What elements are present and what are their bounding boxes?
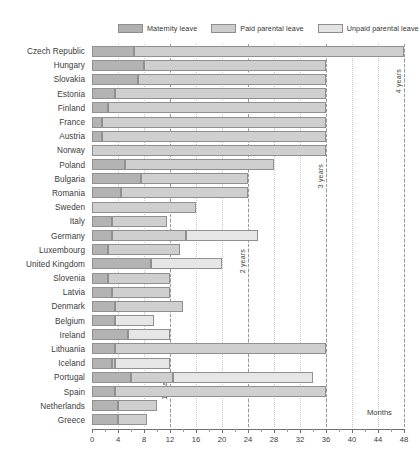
bar-segment-paid[interactable]: [118, 400, 157, 411]
bar-row: United Kingdom: [92, 258, 404, 269]
stacked-bar[interactable]: [92, 358, 170, 369]
bar-segment-paid[interactable]: [131, 372, 173, 383]
stacked-bar[interactable]: [92, 400, 157, 411]
axis-tick: [209, 429, 210, 432]
bar-segment-mat[interactable]: [92, 343, 115, 354]
axis-tick: [170, 429, 171, 433]
stacked-bar[interactable]: [92, 60, 326, 71]
bar-segment-mat[interactable]: [92, 216, 112, 227]
bar-segment-mat[interactable]: [92, 173, 141, 184]
stacked-bar[interactable]: [92, 301, 183, 312]
bar-segment-paid[interactable]: [115, 88, 326, 99]
bar-segment-paid[interactable]: [108, 273, 170, 284]
bar-segment-mat[interactable]: [92, 187, 121, 198]
bar-segment-paid[interactable]: [102, 131, 326, 142]
bar-segment-mat[interactable]: [92, 46, 134, 57]
bar-segment-paid[interactable]: [115, 386, 326, 397]
stacked-bar[interactable]: [92, 273, 170, 284]
bar-segment-mat[interactable]: [92, 60, 144, 71]
stacked-bar[interactable]: [92, 159, 274, 170]
bar-segment-paid[interactable]: [92, 202, 196, 213]
bar-segment-mat[interactable]: [92, 74, 138, 85]
bar-segment-mat[interactable]: [92, 258, 151, 269]
bar-segment-paid[interactable]: [144, 60, 326, 71]
bar-segment-mat[interactable]: [92, 372, 131, 383]
stacked-bar[interactable]: [92, 372, 313, 383]
bar-segment-paid[interactable]: [112, 216, 167, 227]
axis-tick: [339, 429, 340, 432]
bar-segment-unpaid[interactable]: [151, 258, 223, 269]
bar-segment-mat[interactable]: [92, 159, 125, 170]
bar-segment-mat[interactable]: [92, 273, 108, 284]
bar-segment-mat[interactable]: [92, 414, 118, 425]
stacked-bar[interactable]: [92, 329, 170, 340]
stacked-bar[interactable]: [92, 46, 404, 57]
bar-segment-mat[interactable]: [92, 358, 112, 369]
bar-segment-mat[interactable]: [92, 244, 108, 255]
bar-segment-paid[interactable]: [112, 230, 187, 241]
stacked-bar[interactable]: [92, 102, 326, 113]
bar-segment-mat[interactable]: [92, 400, 118, 411]
bar-row: Luxembourg: [92, 244, 404, 255]
bar-segment-mat[interactable]: [92, 131, 102, 142]
bar-segment-mat[interactable]: [92, 287, 112, 298]
bar-segment-mat[interactable]: [92, 301, 115, 312]
stacked-bar[interactable]: [92, 343, 326, 354]
bar-segment-mat[interactable]: [92, 386, 115, 397]
bar-segment-paid[interactable]: [141, 173, 248, 184]
stacked-bar[interactable]: [92, 315, 154, 326]
bar-segment-mat[interactable]: [92, 329, 128, 340]
bar-segment-paid[interactable]: [115, 301, 183, 312]
bar-segment-unpaid[interactable]: [173, 372, 313, 383]
stacked-bar[interactable]: [92, 287, 170, 298]
stacked-bar[interactable]: [92, 187, 248, 198]
category-label-germany: Germany: [51, 231, 85, 240]
stacked-bar[interactable]: [92, 131, 326, 142]
plot-area: 1 year2 years3 years4 years Czech Republ…: [92, 44, 404, 427]
stacked-bar[interactable]: [92, 216, 167, 227]
bar-segment-mat[interactable]: [92, 102, 108, 113]
stacked-bar[interactable]: [92, 258, 222, 269]
bar-segment-paid[interactable]: [118, 414, 147, 425]
bar-segment-paid[interactable]: [112, 287, 171, 298]
stacked-bar[interactable]: [92, 202, 196, 213]
category-label-denmark: Denmark: [51, 302, 85, 311]
bar-segment-paid[interactable]: [108, 102, 326, 113]
stacked-bar[interactable]: [92, 74, 326, 85]
legend-swatch-maternity-icon: [118, 24, 143, 33]
bar-segment-paid[interactable]: [102, 117, 326, 128]
stacked-bar[interactable]: [92, 386, 326, 397]
axis-tick: [248, 429, 249, 433]
axis-tick: [326, 429, 327, 433]
bar-segment-paid[interactable]: [115, 343, 326, 354]
stacked-bar[interactable]: [92, 244, 180, 255]
axis-tick-label: 0: [90, 435, 94, 444]
legend-item-paid: Paid parental leave: [211, 24, 303, 33]
axis-tick: [131, 429, 132, 432]
bar-segment-paid[interactable]: [134, 46, 404, 57]
bar-row: Slovenia: [92, 273, 404, 284]
bar-segment-unpaid[interactable]: [186, 230, 258, 241]
bar-segment-mat[interactable]: [92, 88, 115, 99]
bar-segment-unpaid[interactable]: [128, 329, 170, 340]
bar-segment-mat[interactable]: [92, 315, 115, 326]
stacked-bar[interactable]: [92, 414, 147, 425]
bar-segment-mat[interactable]: [92, 230, 112, 241]
stacked-bar[interactable]: [92, 173, 248, 184]
bar-segment-paid[interactable]: [108, 244, 180, 255]
bar-segment-paid[interactable]: [121, 187, 248, 198]
stacked-bar[interactable]: [92, 117, 326, 128]
bar-segment-paid[interactable]: [92, 145, 326, 156]
legend-item-unpaid: Unpaid parental leave: [318, 24, 419, 33]
stacked-bar[interactable]: [92, 88, 326, 99]
axis-tick: [352, 429, 353, 433]
bar-segment-mat[interactable]: [92, 117, 102, 128]
axis-tick-label: 8: [142, 435, 146, 444]
stacked-bar[interactable]: [92, 145, 326, 156]
stacked-bar[interactable]: [92, 230, 258, 241]
bar-segment-paid[interactable]: [125, 159, 275, 170]
bar-segment-paid[interactable]: [138, 74, 327, 85]
axis-tick: [378, 429, 379, 433]
bar-segment-unpaid[interactable]: [115, 358, 170, 369]
bar-segment-unpaid[interactable]: [115, 315, 154, 326]
